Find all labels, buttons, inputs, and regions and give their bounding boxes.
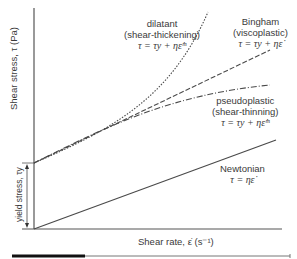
dilatant-equation: τ = τy + ηε̇ᵐ bbox=[124, 40, 200, 51]
bingham-label: Bingham (viscoplastic) τ = τy + ηε̇ bbox=[233, 16, 288, 49]
dilatant-name: dilatant bbox=[124, 18, 200, 29]
yield-stress-label: yield stress, τy bbox=[14, 167, 24, 222]
pseudoplastic-equation: τ = τy + ηε̇ᵐ bbox=[212, 117, 279, 128]
dilatant-label: dilatant (shear-thickening) τ = τy + ηε̇… bbox=[124, 18, 200, 51]
newtonian-name: Newtonian bbox=[220, 163, 265, 174]
dilatant-subname: (shear-thickening) bbox=[124, 29, 200, 40]
y-axis-label: Shear stress, τ (Pa) bbox=[8, 27, 19, 110]
x-axis-label: Shear rate, ε̇ (s⁻¹) bbox=[138, 236, 214, 247]
pseudoplastic-name: pseudoplastic bbox=[212, 95, 279, 106]
bingham-equation: τ = τy + ηε̇ bbox=[233, 38, 288, 49]
newtonian-label: Newtonian τ = ηε̇ bbox=[220, 163, 265, 185]
bingham-name: Bingham bbox=[233, 16, 288, 27]
arrow-down-icon bbox=[25, 223, 29, 228]
pseudoplastic-label: pseudoplastic (shear-thinning) τ = τy + … bbox=[212, 95, 279, 128]
pseudoplastic-subname: (shear-thinning) bbox=[212, 106, 279, 117]
arrow-up-icon bbox=[25, 164, 29, 169]
newtonian-equation: τ = ηε̇ bbox=[220, 174, 265, 185]
bingham-subname: (viscoplastic) bbox=[233, 27, 288, 38]
